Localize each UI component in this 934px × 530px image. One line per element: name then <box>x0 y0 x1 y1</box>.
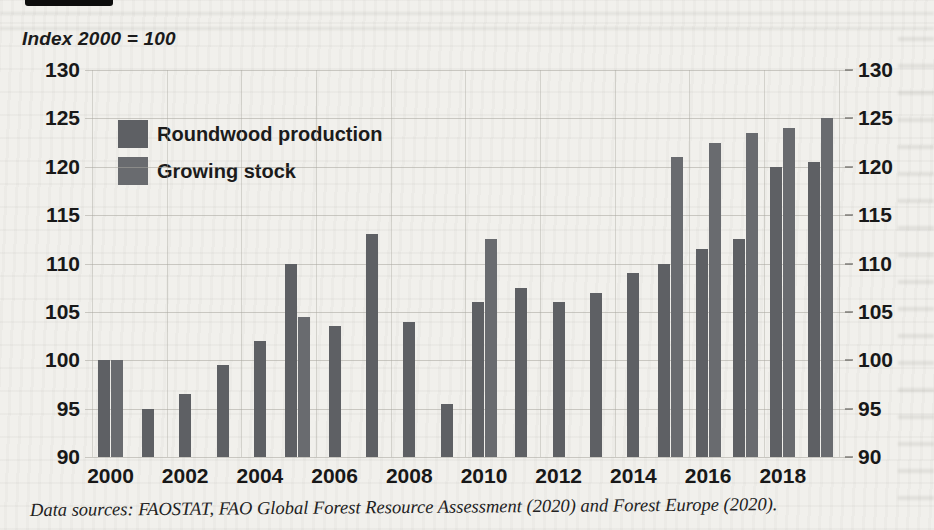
gridline-90 <box>85 457 852 458</box>
bar-roundwood-2015 <box>658 264 670 458</box>
gridline-vertical <box>316 70 317 457</box>
x-axis-label-2014: 2014 <box>591 464 675 488</box>
x-axis-label-2018: 2018 <box>741 464 825 488</box>
y-axis-tick-right-105 <box>845 311 853 313</box>
bar-growing-stock-2017 <box>746 133 758 457</box>
gridline-vertical <box>167 70 168 457</box>
bar-roundwood-2009 <box>441 404 453 457</box>
gridline-120 <box>85 167 852 168</box>
x-axis-label-2008: 2008 <box>367 464 451 488</box>
scanned-page: Index 2000 = 100 Roundwood production Gr… <box>0 0 934 530</box>
bar-roundwood-2014 <box>627 273 639 457</box>
bar-roundwood-2000 <box>98 360 110 457</box>
x-axis-label-2006: 2006 <box>293 464 377 488</box>
bar-roundwood-2012 <box>553 302 565 457</box>
bar-growing-stock-2000 <box>111 360 123 457</box>
y-axis-label-right-120: 120 <box>858 156 893 177</box>
bar-roundwood-2005 <box>285 264 297 458</box>
gridline-vertical <box>839 70 840 457</box>
y-axis-label-right-130: 130 <box>858 59 893 80</box>
y-axis-label-right-100: 100 <box>858 349 893 370</box>
y-axis-tick-right-130 <box>845 69 853 71</box>
bar-roundwood-2004 <box>254 341 266 457</box>
y-axis-label-left-95: 95 <box>34 398 80 419</box>
bar-growing-stock-2015 <box>671 157 683 457</box>
bar-roundwood-2001 <box>142 409 154 457</box>
y-axis-label-left-130: 130 <box>34 59 80 80</box>
gridline-vertical <box>465 70 466 457</box>
bar-roundwood-2013 <box>590 293 602 457</box>
bar-roundwood-2017 <box>733 239 745 457</box>
gridline-vertical <box>764 70 765 457</box>
bar-growing-stock-2016 <box>709 143 721 457</box>
y-axis-label-right-95: 95 <box>858 398 881 419</box>
y-axis-label-left-125: 125 <box>34 107 80 128</box>
bar-roundwood-2018 <box>770 167 782 457</box>
y-axis-tick-right-90 <box>845 456 853 458</box>
gridline-vertical <box>391 70 392 457</box>
x-axis-label-2012: 2012 <box>517 464 601 488</box>
x-axis-label-2002: 2002 <box>143 464 227 488</box>
y-axis-tick-right-115 <box>845 214 853 216</box>
gridline-vertical <box>689 70 690 457</box>
gridline-130 <box>85 70 852 71</box>
bar-roundwood-2006 <box>329 326 341 457</box>
y-axis-tick-right-120 <box>845 166 853 168</box>
bar-roundwood-2019 <box>808 162 820 457</box>
y-axis-label-left-120: 120 <box>34 156 80 177</box>
y-axis-label-left-115: 115 <box>34 204 80 225</box>
bar-roundwood-2010 <box>472 302 484 457</box>
gridline-vertical <box>540 70 541 457</box>
bar-growing-stock-2010 <box>485 239 497 457</box>
bar-growing-stock-2019 <box>821 118 833 457</box>
x-axis-label-2000: 2000 <box>69 464 153 488</box>
y-axis-tick-right-110 <box>845 263 853 265</box>
gridline-vertical <box>615 70 616 457</box>
y-axis-label-right-90: 90 <box>858 446 881 467</box>
bar-roundwood-2016 <box>696 249 708 457</box>
plot-area: 9090959510010010510511011011511512012012… <box>0 0 934 530</box>
y-axis-label-right-115: 115 <box>858 204 892 225</box>
y-axis-label-right-110: 110 <box>858 253 892 274</box>
y-axis-label-right-105: 105 <box>858 301 893 322</box>
bar-growing-stock-2005 <box>298 317 310 457</box>
gridline-115 <box>85 215 852 216</box>
y-axis-label-left-100: 100 <box>34 349 80 370</box>
x-axis-label-2016: 2016 <box>666 464 750 488</box>
bar-growing-stock-2018 <box>783 128 795 457</box>
x-axis-label-2010: 2010 <box>442 464 526 488</box>
gridline-vertical <box>92 70 93 457</box>
y-axis-label-left-110: 110 <box>34 253 80 274</box>
y-axis-label-left-105: 105 <box>34 301 80 322</box>
bar-roundwood-2011 <box>515 288 527 457</box>
y-axis-tick-right-125 <box>845 117 853 119</box>
bar-roundwood-2002 <box>179 394 191 457</box>
bar-roundwood-2008 <box>403 322 415 457</box>
y-axis-label-right-125: 125 <box>858 107 893 128</box>
gridline-vertical <box>241 70 242 457</box>
x-axis-label-2004: 2004 <box>218 464 302 488</box>
y-axis-tick-right-100 <box>845 359 853 361</box>
bar-roundwood-2007 <box>366 234 378 457</box>
y-axis-tick-right-95 <box>845 408 853 410</box>
bar-roundwood-2003 <box>217 365 229 457</box>
gridline-125 <box>85 118 852 119</box>
